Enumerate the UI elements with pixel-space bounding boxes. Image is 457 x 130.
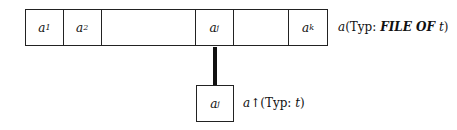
cell-ak: ak [289, 10, 327, 45]
buffer-connector [213, 47, 217, 85]
cell-a2: a2 [64, 10, 102, 45]
buffer-type-label: a↑(Typ: t) [243, 96, 305, 110]
cell-empty-2 [234, 10, 290, 45]
cell-aj-base: a [209, 21, 216, 35]
file-of-keyword: FILE OF [380, 20, 435, 34]
cell-aj-sub: j [217, 23, 219, 32]
up-arrow-icon: ↑ [250, 96, 260, 110]
cell-aj: aj [196, 10, 234, 45]
buffer-type-prefix: (Typ: [260, 96, 295, 110]
file-type-prefix: (Typ: [345, 20, 380, 34]
buffer-variable-box: aj [196, 85, 234, 122]
cell-empty-1 [102, 10, 196, 45]
buffer-type-suffix: ) [300, 96, 305, 110]
file-type-suffix: ) [444, 20, 449, 34]
cell-a2-sub: 2 [83, 23, 88, 32]
cell-a1-base: a [38, 21, 45, 35]
cell-a1: a1 [26, 10, 64, 45]
file-array: a1 a2 aj ak [25, 9, 328, 46]
file-type-label: a(Typ: FILE OF t) [338, 20, 448, 34]
buffer-sub: j [217, 99, 219, 108]
cell-a1-sub: 1 [45, 23, 50, 32]
cell-ak-base: a [302, 21, 309, 35]
cell-ak-sub: k [309, 23, 314, 32]
